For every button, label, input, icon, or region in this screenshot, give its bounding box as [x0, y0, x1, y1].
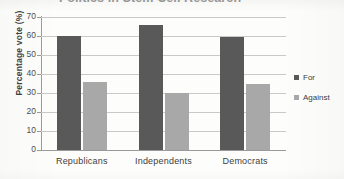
bar-independents-for: [139, 25, 163, 150]
y-tick-label-40: 40: [4, 68, 36, 78]
y-tick-label-60: 60: [4, 30, 36, 40]
y-tick-mark-50: [37, 55, 41, 56]
legend-swatch-icon-for: [294, 75, 299, 80]
bar-republicans-for: [57, 36, 81, 150]
y-tick-mark-10: [37, 131, 41, 132]
chart-figure: Politics in Stem Cell Research Percentag…: [0, 0, 344, 179]
y-tick-label-10: 10: [4, 125, 36, 135]
y-tick-label-50: 50: [4, 49, 36, 59]
y-tick-label-70: 70: [4, 11, 36, 21]
bar-democrats-against: [246, 84, 270, 151]
y-tick-mark-0: [37, 150, 41, 151]
y-tick-label-30: 30: [4, 87, 36, 97]
x-axis-label-democrats: Democrats: [204, 156, 286, 166]
bar-independents-against: [165, 93, 189, 150]
y-axis-tick-labels: 706050403020100: [0, 0, 36, 179]
y-tick-label-0: 0: [4, 144, 36, 154]
y-tick-mark-20: [37, 112, 41, 113]
gridline-70: [41, 17, 286, 18]
bar-democrats-for: [220, 37, 244, 150]
gridline-0: [41, 150, 286, 151]
bar-republicans-against: [83, 82, 107, 150]
y-tick-mark-30: [37, 93, 41, 94]
y-tick-mark-40: [37, 74, 41, 75]
legend-swatch-icon-against: [294, 95, 299, 100]
plot-area: [41, 17, 286, 150]
x-axis-label-independents: Independents: [123, 156, 205, 166]
legend-label-against: Against: [303, 93, 330, 102]
chart-legend: ForAgainst: [294, 73, 344, 113]
chart-title: Politics in Stem Cell Research: [0, 0, 300, 5]
legend-entry-against[interactable]: Against: [294, 93, 344, 102]
legend-entry-for[interactable]: For: [294, 73, 344, 82]
y-tick-mark-70: [37, 17, 41, 18]
x-axis-label-republicans: Republicans: [41, 156, 123, 166]
legend-label-for: For: [303, 73, 315, 82]
y-tick-label-20: 20: [4, 106, 36, 116]
y-tick-mark-60: [37, 36, 41, 37]
